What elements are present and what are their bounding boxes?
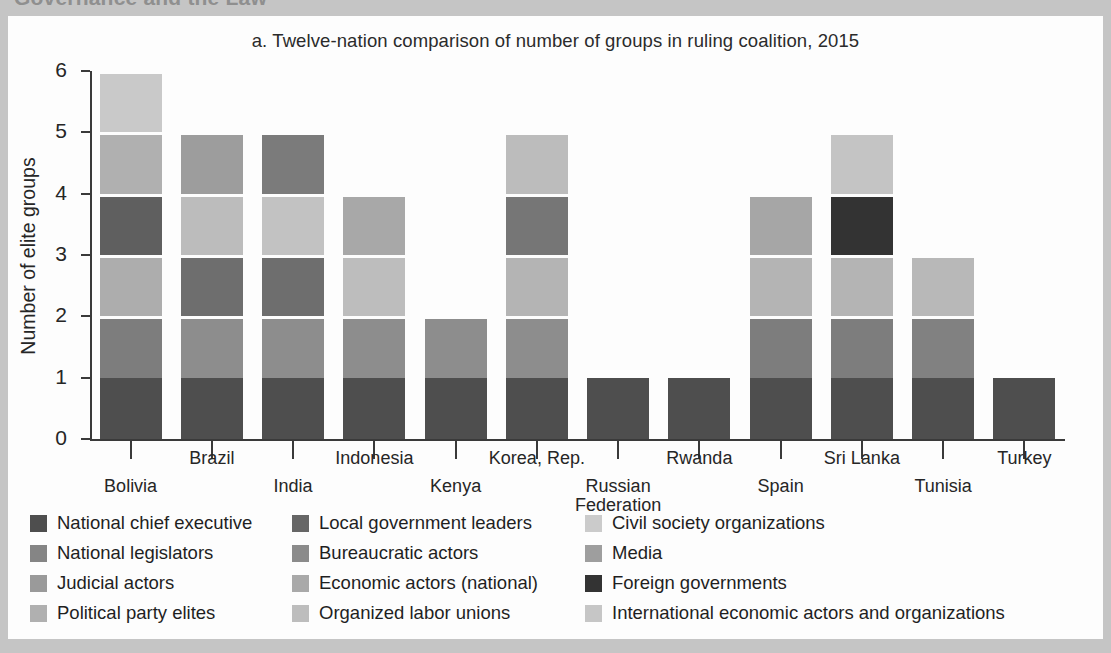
y-axis-tick-label: 6 <box>55 58 67 82</box>
legend-label: Organized labor unions <box>319 602 510 624</box>
legend-item[interactable]: Organized labor unions <box>292 598 585 628</box>
stacked-bar <box>831 132 893 439</box>
legend-swatch-icon <box>585 605 602 622</box>
bar-segment <box>912 255 974 316</box>
legend-column: National chief executiveNational legisla… <box>30 508 292 628</box>
legend-label: Bureaucratic actors <box>319 542 478 564</box>
bar-segment <box>831 194 893 255</box>
legend-item[interactable]: Local government leaders <box>292 508 585 538</box>
y-axis-tick: 5 <box>81 131 90 133</box>
legend-swatch-icon <box>30 545 47 562</box>
legend-label: Media <box>612 542 662 564</box>
bar-segment <box>181 316 243 377</box>
bar-segment <box>831 378 893 439</box>
legend-swatch-icon <box>585 515 602 532</box>
legend-label: National legislators <box>57 542 213 564</box>
bar-segment <box>100 71 162 132</box>
y-axis-tick-label: 1 <box>55 365 67 389</box>
bar-segment <box>425 378 487 439</box>
bar-segment <box>750 316 812 377</box>
legend-label: National chief executive <box>57 512 252 534</box>
legend-item[interactable]: Judicial actors <box>30 568 292 598</box>
figure-page: Governance and the Law a. Twelve-nation … <box>0 0 1111 653</box>
y-axis-tick: 4 <box>81 193 90 195</box>
legend-swatch-icon <box>292 545 309 562</box>
legend-item[interactable]: International economic actors and organi… <box>585 598 1085 628</box>
bar-segment <box>343 194 405 255</box>
legend-label: Political party elites <box>57 602 215 624</box>
plot-area: Number of elite groups 0123456 BoliviaBr… <box>90 71 1065 441</box>
stacked-bar <box>181 132 243 439</box>
bar-segment <box>262 316 324 377</box>
legend-column: Civil society organizationsMediaForeign … <box>585 508 1085 628</box>
y-axis-tick-label: 4 <box>55 181 67 205</box>
bar-segment <box>587 378 649 439</box>
stacked-bar <box>262 132 324 439</box>
x-axis-tick-label: Turkey <box>997 449 1051 468</box>
stacked-bar <box>506 132 568 439</box>
bar-segment <box>912 316 974 377</box>
x-axis-tick-label: Bolivia <box>104 477 157 496</box>
bar-segment <box>668 378 730 439</box>
x-axis-tick-label: Tunisia <box>914 477 971 496</box>
bar-segment <box>343 378 405 439</box>
x-axis-tick <box>942 441 944 459</box>
y-axis-tick: 2 <box>81 315 90 317</box>
legend-item[interactable]: Foreign governments <box>585 568 1085 598</box>
bar-segment <box>181 255 243 316</box>
x-axis-tick <box>130 441 132 459</box>
bar-segment <box>831 132 893 193</box>
chart-title: a. Twelve-nation comparison of number of… <box>8 30 1103 52</box>
bar-segment <box>506 132 568 193</box>
legend-label: Local government leaders <box>319 512 532 534</box>
y-axis-label: Number of elite groups <box>17 157 40 354</box>
x-axis-tick-label: Kenya <box>430 477 481 496</box>
y-axis-tick: 6 <box>81 70 90 72</box>
legend-swatch-icon <box>292 575 309 592</box>
bar-segment <box>506 255 568 316</box>
legend-label: Judicial actors <box>57 572 174 594</box>
legend-item[interactable]: Civil society organizations <box>585 508 1085 538</box>
y-axis-line <box>90 71 92 441</box>
x-axis-tick <box>780 441 782 459</box>
bar-segment <box>343 255 405 316</box>
bar-segment <box>506 378 568 439</box>
legend-swatch-icon <box>30 575 47 592</box>
bar-segment <box>506 194 568 255</box>
y-axis-tick: 1 <box>81 377 90 379</box>
stacked-bar <box>343 194 405 439</box>
x-axis-tick <box>455 441 457 459</box>
legend-swatch-icon <box>292 605 309 622</box>
bar-segment <box>750 194 812 255</box>
legend-swatch-icon <box>585 545 602 562</box>
legend-item[interactable]: National chief executive <box>30 508 292 538</box>
legend-label: Civil society organizations <box>612 512 825 534</box>
stacked-bar <box>668 378 730 439</box>
legend-swatch-icon <box>30 515 47 532</box>
legend-label: International economic actors and organi… <box>612 602 1005 624</box>
cut-off-heading-text: Governance and the Law <box>14 0 267 10</box>
legend-item[interactable]: Bureaucratic actors <box>292 538 585 568</box>
stacked-bar <box>587 378 649 439</box>
x-axis-tick <box>617 441 619 459</box>
bar-segment <box>100 316 162 377</box>
x-axis-tick-label: Sri Lanka <box>824 449 900 468</box>
legend-swatch-icon <box>585 575 602 592</box>
stacked-bar <box>750 194 812 439</box>
legend-item[interactable]: Economic actors (national) <box>292 568 585 598</box>
x-axis-tick-label: Indonesia <box>335 449 413 468</box>
legend-swatch-icon <box>292 515 309 532</box>
x-axis-tick-label: Rwanda <box>666 449 732 468</box>
legend-item[interactable]: Political party elites <box>30 598 292 628</box>
cut-off-page-heading: Governance and the Law <box>0 0 1111 14</box>
bar-segment <box>912 378 974 439</box>
legend-item[interactable]: Media <box>585 538 1085 568</box>
x-axis-tick-label: Brazil <box>189 449 234 468</box>
bar-segment <box>181 378 243 439</box>
y-axis-tick-label: 0 <box>55 426 67 450</box>
legend-item[interactable]: National legislators <box>30 538 292 568</box>
chart-figure: a. Twelve-nation comparison of number of… <box>8 16 1103 639</box>
bar-segment <box>181 132 243 193</box>
bar-segment <box>100 132 162 193</box>
stacked-bar <box>425 316 487 439</box>
